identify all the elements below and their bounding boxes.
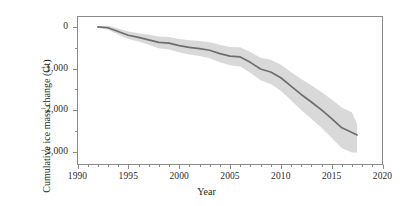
y-tick-label: 0 — [20, 22, 68, 32]
x-axis-label-text: Year — [197, 186, 215, 197]
y-tick-label: −1,000 — [20, 64, 68, 74]
y-tick-label: −3,000 — [20, 147, 68, 157]
x-tick-label: 2010 — [271, 172, 290, 182]
uncertainty-band — [98, 26, 357, 153]
x-tick-label: 2015 — [322, 172, 341, 182]
y-axis-label: Cumulative ice mass change (Gt) — [41, 46, 52, 134]
x-tick-label: 1990 — [68, 172, 87, 182]
x-axis-label: Year — [0, 186, 413, 197]
x-tick-label: 1995 — [119, 172, 138, 182]
ice-mass-chart-figure: Cumulative ice mass change (Gt) Year 0−1… — [0, 0, 413, 206]
x-tick-label: 2005 — [220, 172, 239, 182]
x-tick-label: 2000 — [169, 172, 188, 182]
y-tick-label: −2,000 — [20, 106, 68, 116]
x-tick-label: 2020 — [373, 172, 392, 182]
